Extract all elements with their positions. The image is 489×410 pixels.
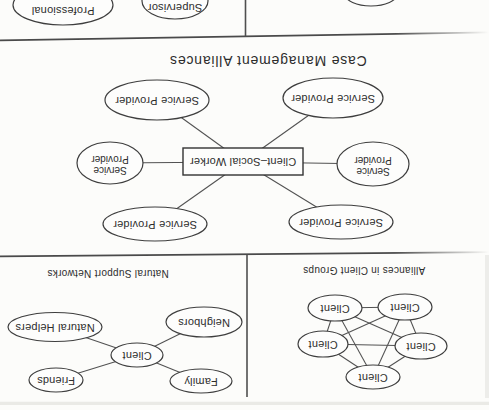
partial-node bbox=[345, 0, 397, 6]
service-provider-label: Service Provider bbox=[291, 93, 375, 105]
client-node-label: Client bbox=[390, 302, 419, 314]
panel-natural-support: Client Family Friends Neighbors Natural … bbox=[8, 268, 242, 394]
service-provider-label-line1: Service bbox=[93, 165, 127, 176]
panel-case-management: Client–Social Worker Service Provider Se… bbox=[77, 53, 409, 242]
service-provider-label-line2: Provider bbox=[91, 154, 129, 165]
service-provider-label: Service Provider bbox=[299, 217, 383, 229]
scanned-figure-page: Client Client Client Client Client Allia… bbox=[0, 0, 489, 410]
service-provider-label: Service Provider bbox=[115, 95, 199, 107]
service-provider-label-line1: Service bbox=[356, 166, 390, 177]
client-node-label: Client bbox=[406, 341, 435, 353]
diagram-svg: Client Client Client Client Client Allia… bbox=[0, 0, 489, 410]
service-provider-label: Service Provider bbox=[113, 219, 197, 231]
service-provider-label-line2: Provider bbox=[354, 155, 392, 166]
professional-label: Professional bbox=[32, 5, 95, 17]
natural-support-title: Natural Support Networks bbox=[47, 268, 169, 279]
panel-client-groups: Client Client Client Client Client Allia… bbox=[298, 265, 447, 390]
case-management-title: Case Management Alliances bbox=[169, 53, 366, 69]
panel-adjacent-partial: Supervisor Professional bbox=[13, 0, 397, 25]
client-node-label: Client bbox=[358, 372, 387, 384]
family-label: Family bbox=[184, 376, 218, 388]
client-node-label: Client bbox=[320, 303, 349, 315]
natural-helpers-label: Natural Helpers bbox=[15, 322, 95, 334]
client-social-worker-label: Client–Social Worker bbox=[190, 156, 297, 168]
divider-horizontal-upper bbox=[0, 252, 489, 256]
friends-label: Friends bbox=[37, 375, 75, 387]
neighbors-label: Neighbors bbox=[178, 317, 230, 329]
scan-edge-band bbox=[485, 255, 489, 398]
divider-horizontal-lower bbox=[0, 32, 489, 40]
scan-shadow-band bbox=[0, 402, 489, 405]
client-node-label: Client bbox=[308, 339, 337, 351]
supervisor-label: Supervisor bbox=[148, 2, 203, 14]
client-center-label: Client bbox=[122, 350, 151, 362]
client-groups-title: Alliances in Client Groups bbox=[303, 265, 425, 276]
